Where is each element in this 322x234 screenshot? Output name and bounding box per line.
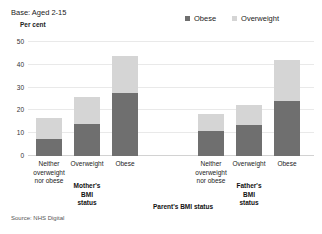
bar-5-segment-obese[interactable] (236, 125, 262, 156)
bar-2-segment-obese[interactable] (74, 124, 100, 156)
bar-series-layer (28, 42, 314, 156)
bar-3-segment-overweight[interactable] (112, 56, 138, 94)
legend-item-overweight: Overweight (232, 14, 279, 23)
bar-4-segment-overweight[interactable] (198, 114, 224, 131)
y-axis-tick-30: 30 (17, 83, 24, 90)
bar-5-segment-overweight[interactable] (236, 105, 262, 126)
bar-6-segment-overweight[interactable] (274, 60, 300, 101)
bar-1-segment-overweight[interactable] (36, 118, 62, 139)
category-label-3: Obese (102, 160, 148, 169)
x-axis-title: Parent's BMI status (118, 203, 248, 210)
y-axis-tick-10: 10 (17, 129, 24, 136)
chart-container: Base: Aged 2-15 Per cent ObeseOverweight… (0, 0, 322, 234)
chart-legend: ObeseOverweight (185, 14, 279, 23)
legend-item-obese: Obese (185, 14, 216, 23)
bar-5[interactable] (236, 105, 262, 156)
bar-4-segment-obese[interactable] (198, 131, 224, 156)
bar-6-segment-obese[interactable] (274, 101, 300, 156)
bar-2[interactable] (74, 97, 100, 156)
bar-3[interactable] (112, 56, 138, 156)
legend-swatch-obese (185, 16, 190, 21)
y-axis-tick-0: 0 (20, 152, 24, 159)
bar-3-segment-obese[interactable] (112, 93, 138, 156)
legend-label-overweight: Overweight (241, 14, 279, 23)
y-axis-tick-20: 20 (17, 106, 24, 113)
y-axis-tick-50: 50 (17, 38, 24, 45)
plot-area: 01020304050 (28, 42, 314, 156)
y-axis-tick-40: 40 (17, 60, 24, 67)
bar-6[interactable] (274, 60, 300, 156)
legend-swatch-overweight (232, 16, 237, 21)
bar-2-segment-overweight[interactable] (74, 97, 100, 124)
source-note: Source: NHS Digital (11, 215, 64, 221)
base-note: Base: Aged 2-15 (11, 8, 66, 17)
y-axis-unit-label: Per cent (20, 21, 46, 28)
bar-1-segment-obese[interactable] (36, 139, 62, 156)
bar-1[interactable] (36, 118, 62, 156)
category-label-6: Obese (264, 160, 310, 169)
legend-label-obese: Obese (194, 14, 216, 23)
bar-4[interactable] (198, 114, 224, 156)
group-label-mother: Mother's BMI status (62, 182, 112, 208)
